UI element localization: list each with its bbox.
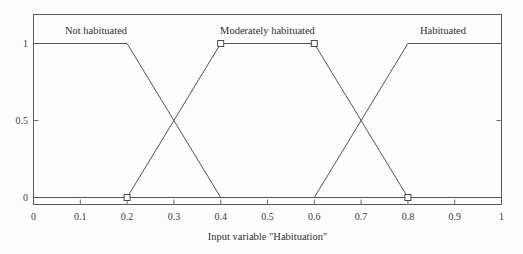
mf-curve-habituated[interactable] (314, 44, 501, 198)
x-tick-label-0.3: 0.3 (168, 211, 181, 222)
x-tick-label-0.2: 0.2 (121, 211, 134, 222)
mf-curve-not-habituated[interactable] (34, 44, 221, 198)
x-tick-label-0.4: 0.4 (214, 211, 227, 222)
x-tick-label-0.9: 0.9 (448, 211, 461, 222)
mf-curve-moderately-habituated[interactable] (127, 44, 408, 198)
x-tick-label-1: 1 (499, 211, 504, 222)
x-tick-label-0: 0 (31, 211, 36, 222)
membership-plot: Not habituated Moderately habituated Hab… (0, 0, 523, 254)
handle-point-0.6-1[interactable] (311, 41, 317, 47)
x-tick-label-0.5: 0.5 (261, 211, 274, 222)
x-tick-label-0.7: 0.7 (355, 211, 368, 222)
set-label-not-habituated: Not habituated (65, 25, 128, 36)
handle-point-0.2-0[interactable] (124, 195, 130, 201)
set-label-habituated: Habituated (420, 25, 467, 36)
y-axis-ticks (34, 44, 502, 198)
handle-point-0.4-1[interactable] (218, 41, 224, 47)
x-tick-label-0.1: 0.1 (74, 211, 87, 222)
set-label-moderately-habituated: Moderately habituated (220, 25, 316, 36)
x-tick-label-0.8: 0.8 (402, 211, 415, 222)
x-tick-label-0.6: 0.6 (308, 211, 321, 222)
handle-point-0.8-0[interactable] (405, 195, 411, 201)
y-tick-label-0.5: 0.5 (16, 115, 29, 126)
x-axis-title: Input variable "Habituation" (208, 231, 327, 242)
fuzzy-membership-chart: Not habituated Moderately habituated Hab… (0, 0, 523, 254)
y-tick-label-0: 0 (23, 192, 28, 203)
y-tick-label-1: 1 (23, 38, 28, 49)
x-axis-ticks (80, 200, 454, 205)
